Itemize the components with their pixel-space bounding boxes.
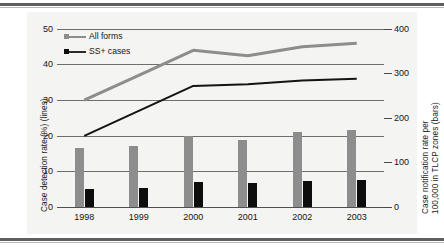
x-tick-2003: 2003 [330,212,384,222]
chart-legend: All forms SS+ cases [64,31,130,56]
legend-item-sspos: SS+ cases [64,46,130,56]
y-right-tick-0: 0 [394,202,420,212]
y-left-tick-40: 40 [27,59,53,69]
y-right-tickmark-100 [384,162,392,163]
x-tick-1998: 1998 [57,212,111,222]
figure-frame: Case detection rate (%) (lines) Case not… [0,0,444,250]
line-sspos [84,79,357,136]
y-right-tick-400: 400 [394,24,420,34]
legend-label-sspos: SS+ cases [89,46,130,56]
y-axis-right-title-line2: 100,000 in TLCP zones (bars) [431,9,441,214]
legend-swatch-all-forms [64,32,86,41]
bottom-border-rule-thin [0,242,444,243]
legend-swatch-sspos [64,47,86,56]
y-right-tickmark-200 [384,118,392,119]
x-tick-1999: 1999 [112,212,166,222]
y-left-tick-30: 30 [27,95,53,105]
legend-label-all-forms: All forms [89,31,122,41]
y-left-tick-10: 10 [27,166,53,176]
legend-item-all-forms: All forms [64,31,130,41]
top-border-rule-thin [0,7,444,8]
x-tick-2002: 2002 [275,212,329,222]
axis-baseline [57,207,384,208]
bottom-border-rule [0,238,444,241]
y-left-tick-0: 0 [27,202,53,212]
y-right-tickmark-300 [384,73,392,74]
y-left-tick-20: 20 [27,131,53,141]
y-axis-right-title: Case notification rate per 100,000 in TL… [421,9,440,214]
y-right-tickmark-0 [384,207,392,208]
y-right-tick-200: 200 [394,113,420,123]
top-border-rule [0,3,444,6]
y-right-tick-100: 100 [394,157,420,167]
y-right-tickmark-400 [384,29,392,30]
y-axis-left-title: Case detection rate (%) (lines) [40,98,50,212]
y-right-tick-300: 300 [394,68,420,78]
y-left-tick-50: 50 [27,24,53,34]
x-tick-2001: 2001 [221,212,275,222]
y-axis-right-title-line1: Case notification rate per [421,120,430,214]
x-tick-2000: 2000 [166,212,220,222]
